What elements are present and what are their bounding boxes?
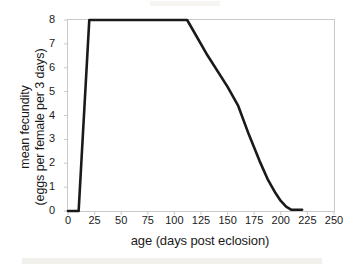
fecundity-line-chart: mean fecundity (eggs per female per 3 da… xyxy=(0,0,348,267)
scan-artifact-bottom xyxy=(22,258,322,264)
x-axis-tick-labels: 0255075100125150175200225250 xyxy=(0,215,348,229)
x-axis-label: age (days post eclosion) xyxy=(58,233,342,248)
x-tick-label: 250 xyxy=(314,215,348,226)
plot-frame xyxy=(68,20,335,212)
